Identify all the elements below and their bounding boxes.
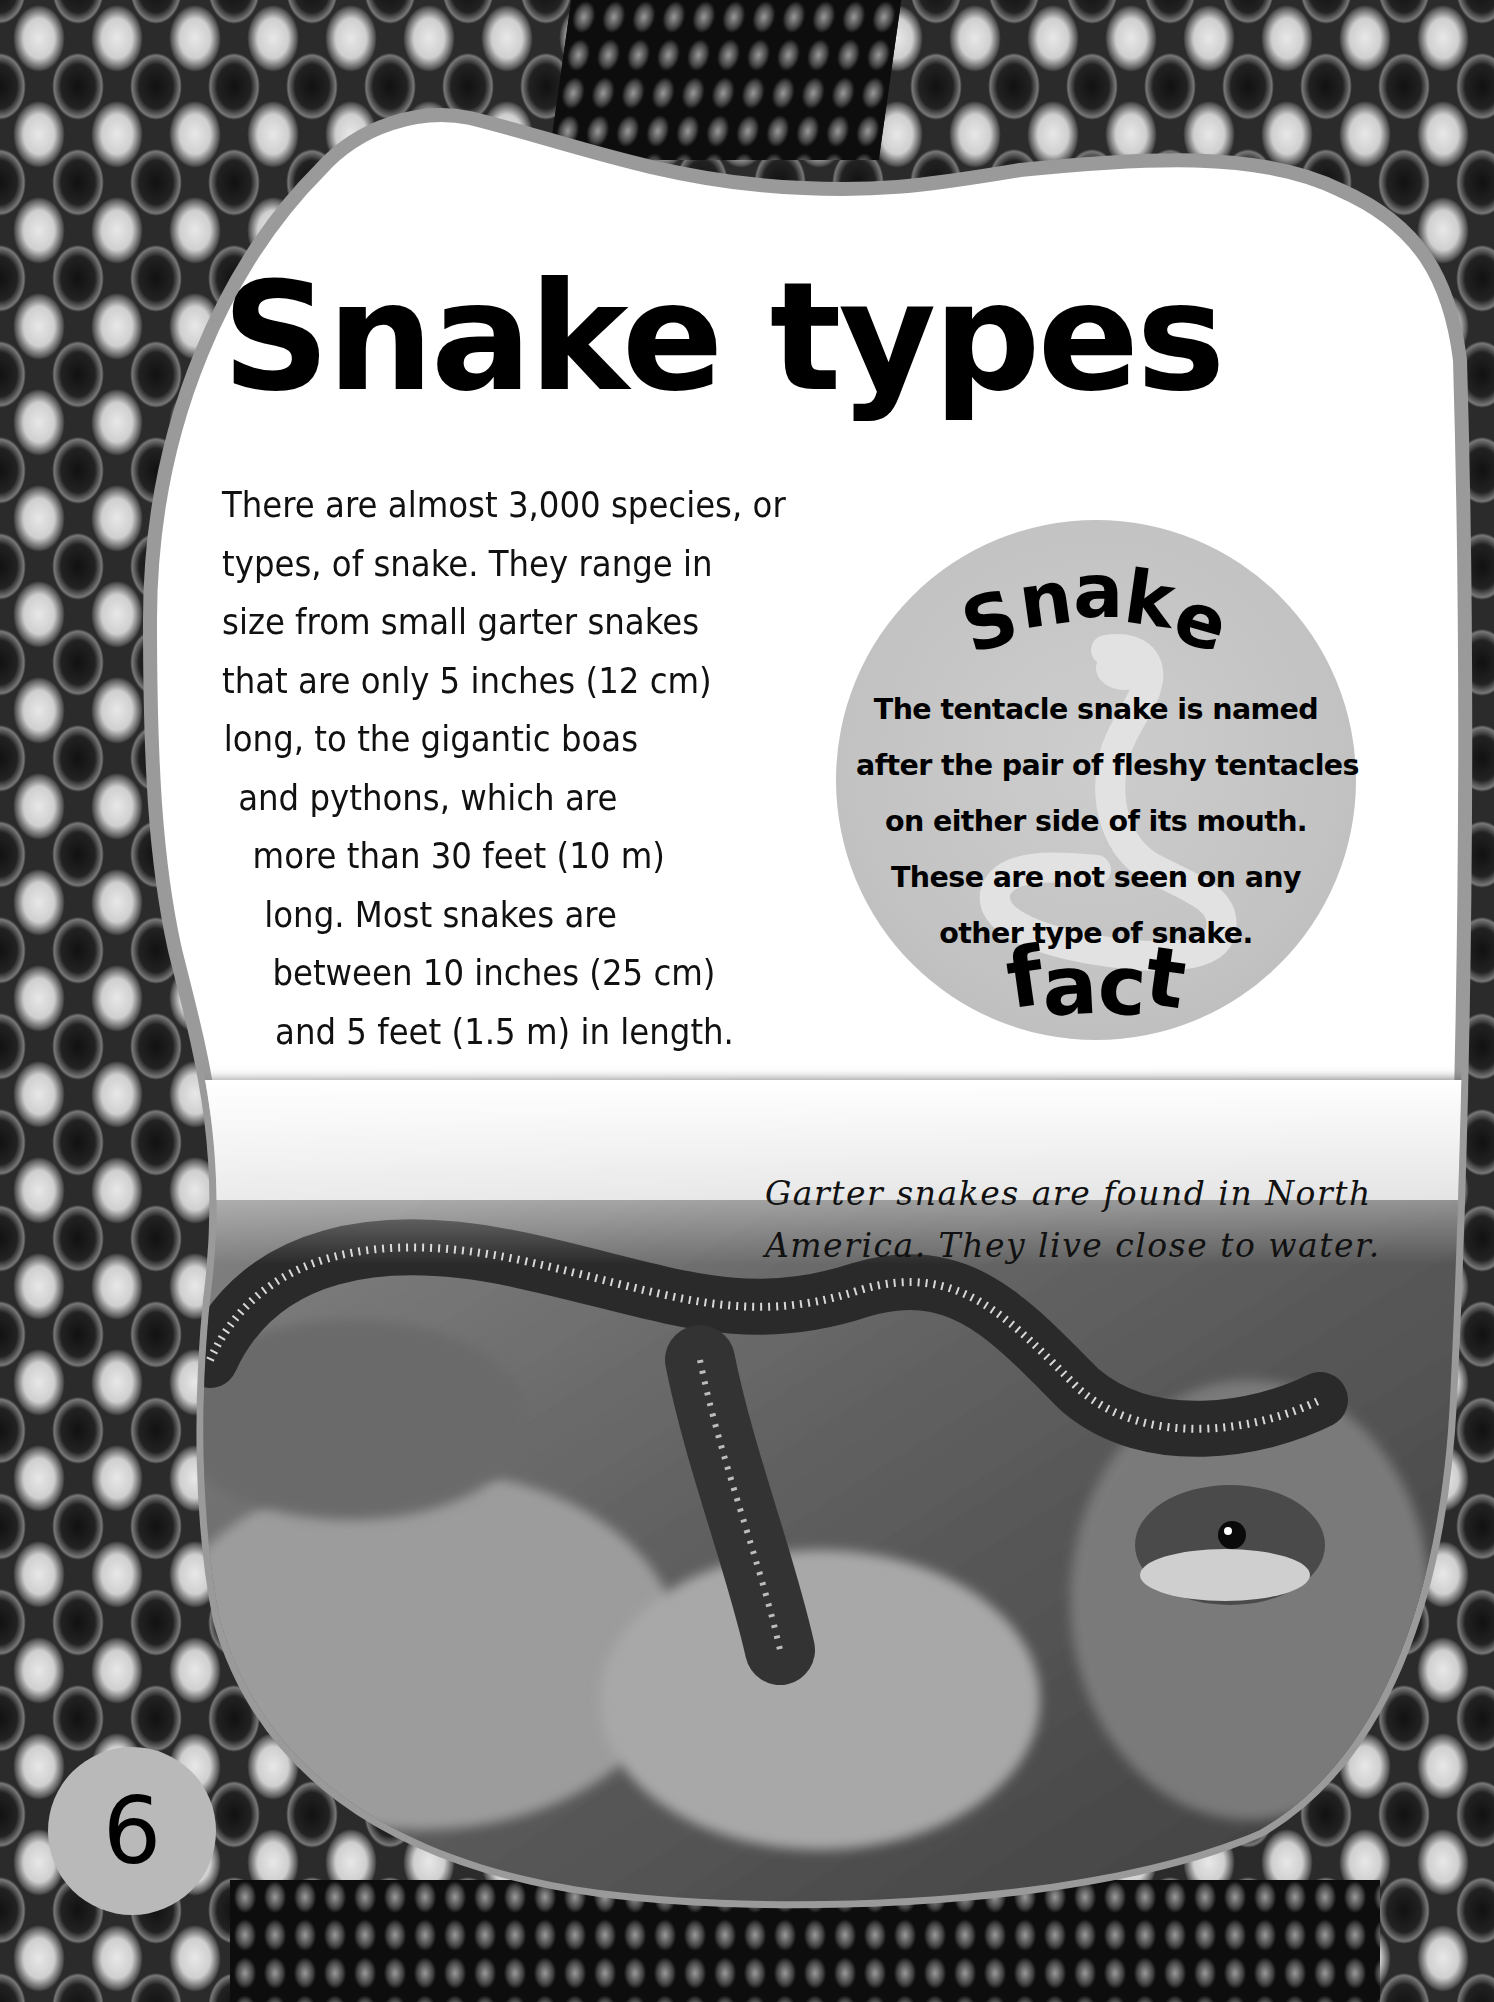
- heading-letter: a: [1073, 548, 1125, 634]
- heading-letter: a: [1040, 937, 1100, 1035]
- paragraph-line: long, to the gigantic boas: [224, 710, 798, 769]
- page-number-badge: 6: [48, 1747, 216, 1915]
- fact-text: The tentacle snake is named after the pa…: [856, 682, 1336, 962]
- paragraph-line: long. Most snakes are: [264, 886, 798, 945]
- caption-line: America. They live close to water.: [765, 1220, 1405, 1272]
- heading-letter: n: [1013, 553, 1079, 646]
- fact-heading-snake: Snake: [836, 556, 1356, 642]
- snake-fact-box: Snake The tentacle snake is named after …: [836, 520, 1356, 1040]
- fact-line: after the pair of fleshy tentacles: [856, 738, 1336, 794]
- intro-paragraph: There are almost 3,000 species, or types…: [222, 476, 798, 1061]
- paragraph-line: between 10 inches (25 cm): [272, 944, 798, 1003]
- fact-line: on either side of its mouth.: [856, 794, 1336, 850]
- photo-caption: Garter snakes are found in North America…: [765, 1168, 1405, 1272]
- paragraph-line: more than 30 feet (10 m): [253, 827, 798, 886]
- paragraph-line: and 5 feet (1.5 m) in length.: [275, 1003, 798, 1062]
- fact-line: These are not seen on any: [856, 850, 1336, 906]
- paragraph-line: types, of snake. They range in: [222, 535, 798, 594]
- page-title: Snake types: [222, 262, 1223, 412]
- paragraph-line: and pythons, which are: [238, 769, 798, 828]
- caption-line: Garter snakes are found in North: [765, 1168, 1405, 1220]
- fact-heading-fact: fact: [836, 936, 1356, 1031]
- fact-line: The tentacle snake is named: [856, 682, 1336, 738]
- paragraph-line: There are almost 3,000 species, or: [222, 476, 798, 535]
- paragraph-line: size from small garter snakes: [222, 593, 798, 652]
- paragraph-line: that are only 5 inches (12 cm): [222, 652, 798, 711]
